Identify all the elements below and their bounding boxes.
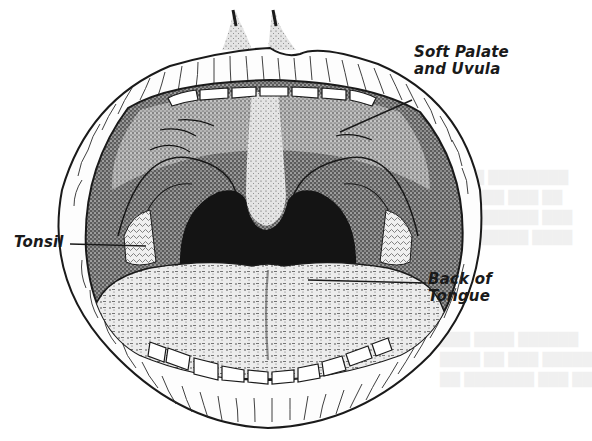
label-soft-palate-line2: and Uvula: [414, 61, 509, 78]
nostril-shading: [222, 10, 296, 50]
label-soft-palate-line1: Soft Palate: [414, 44, 509, 61]
label-soft-palate-and-uvula: Soft Palate and Uvula: [414, 44, 509, 78]
label-tonsil: Tonsil: [14, 234, 64, 251]
label-back-of-tongue-line2: Tongue: [428, 288, 492, 305]
label-back-of-tongue: Back of Tongue: [428, 271, 492, 305]
mouth-cavity: [86, 80, 463, 380]
label-tonsil-line1: Tonsil: [14, 234, 64, 251]
label-back-of-tongue-line1: Back of: [428, 271, 492, 288]
